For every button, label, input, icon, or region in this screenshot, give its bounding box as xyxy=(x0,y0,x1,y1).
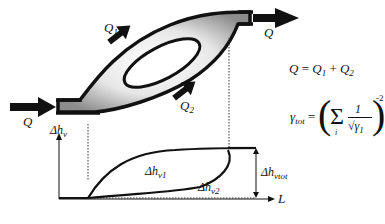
fraction-denominator: √γ1 xyxy=(348,119,364,135)
exponent: -2 xyxy=(376,93,384,103)
fraction-bar xyxy=(348,117,372,118)
outlet-flow-label: Q xyxy=(264,25,273,41)
inlet-arrow-icon xyxy=(10,97,56,117)
y-axis-label: Δhv xyxy=(50,123,67,139)
outlet-arrow-icon xyxy=(253,8,299,28)
sigma-symbol: Σ xyxy=(330,103,344,130)
x-axis-label: L xyxy=(278,191,285,207)
sum-index: i xyxy=(335,128,337,137)
flow-sum-equation: Q = Q1 + Q2 xyxy=(289,61,354,78)
inlet-flow-label: Q xyxy=(23,114,32,130)
curve-2-label: Δhv2 xyxy=(198,180,220,196)
branch1-flow-label: Q1 xyxy=(104,20,118,37)
curve-1-label: Δhv1 xyxy=(145,164,167,180)
total-head-loss-label: Δhvtot xyxy=(261,165,288,181)
pipe-loop xyxy=(58,12,250,112)
fraction-numerator: 1 xyxy=(355,102,361,117)
total-head-loss-dimension-icon xyxy=(253,148,259,198)
branch2-flow-label: Q2 xyxy=(180,98,194,115)
gamma-tot-equation: γtot = xyxy=(290,109,315,126)
